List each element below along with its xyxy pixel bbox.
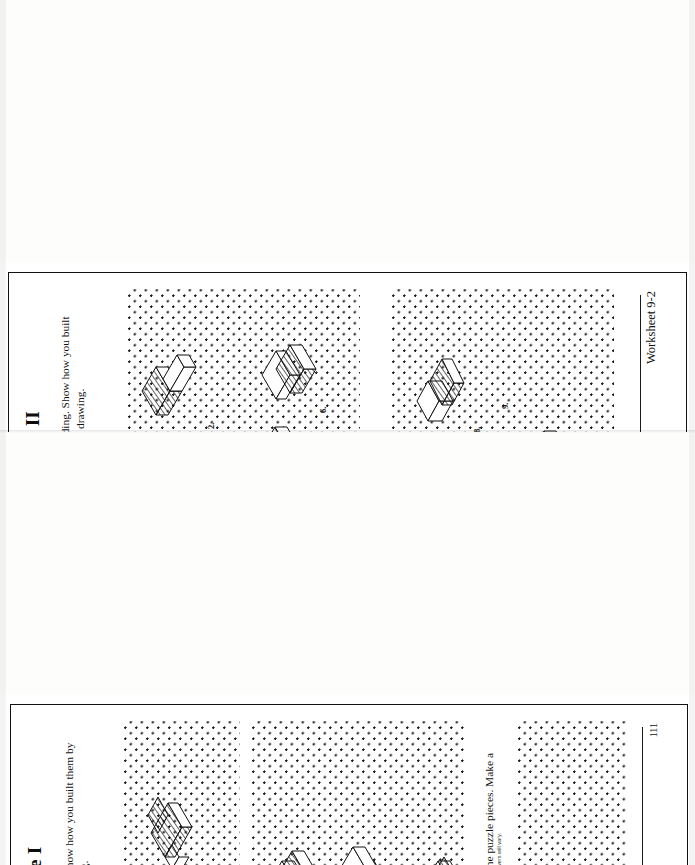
problem-figure-6 bbox=[420, 831, 478, 865]
scanned-worksheet-spread: NAME Two-Piece Puzzle II In each part us… bbox=[0, 0, 695, 865]
scan-edge-left bbox=[0, 0, 6, 865]
demo-result-building bbox=[142, 785, 200, 865]
problem-number-2: 2. bbox=[206, 423, 216, 429]
footer-rule-9-1 bbox=[642, 727, 643, 865]
page-worksheet-9-2: NAME Two-Piece Puzzle II In each part us… bbox=[0, 0, 695, 432]
problem-number-9: 9. bbox=[500, 403, 510, 409]
problem-figure-8 bbox=[414, 347, 474, 427]
problem-figure-5 bbox=[340, 831, 402, 865]
problem-figure-4 bbox=[262, 831, 324, 865]
footer-worksheet-label-9-2: Worksheet 9-2 bbox=[644, 291, 659, 364]
page-gutter-shadow bbox=[0, 430, 695, 433]
problem-figure-6 bbox=[260, 331, 330, 407]
intro-text: In each part use the puzzle pieces to bu… bbox=[58, 297, 88, 432]
answers-will-vary-note: Answers will vary. bbox=[496, 833, 502, 865]
intro-text: Use the two puzzle pieces to build each … bbox=[62, 729, 92, 865]
page-title: Two-Piece Puzzle II bbox=[22, 411, 44, 432]
footer-rule-9-2 bbox=[640, 295, 641, 432]
page-canvas-9-2: NAME Two-Piece Puzzle II In each part us… bbox=[0, 263, 695, 432]
page-title: Two-Piece Puzzle I bbox=[24, 847, 46, 865]
page-worksheet-9-1: NAME Two-Piece Puzzle I Use the two puzz… bbox=[0, 432, 695, 865]
page-canvas-9-1: NAME Two-Piece Puzzle I Use the two puzz… bbox=[0, 695, 695, 865]
footer-page-number-9-1: 111 bbox=[648, 723, 659, 737]
scan-edge-right bbox=[689, 0, 695, 865]
problem-figure-2 bbox=[136, 341, 202, 423]
dot-grid-panel-answer-space bbox=[518, 721, 628, 865]
problem-number-6: 6. bbox=[318, 407, 328, 413]
